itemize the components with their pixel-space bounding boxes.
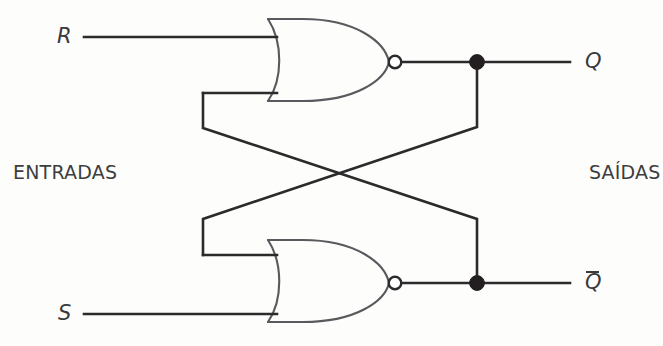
label-output-qbar-text: Q (585, 271, 602, 293)
nor-top-upper-arc (268, 19, 389, 62)
junction-dot-qbar (470, 276, 485, 291)
nor-bottom-lower-arc (268, 283, 389, 322)
label-output-qbar: Q (585, 271, 602, 293)
nor-top-left-edge (268, 19, 279, 101)
label-input-s: S (58, 303, 71, 324)
label-outputs-group: SAÍDAS (589, 163, 661, 182)
nor-bottom-left-edge (268, 240, 279, 322)
logic-diagram-figure: R S Q Q ENTRADAS SAÍDAS (0, 0, 663, 346)
label-input-r: R (57, 26, 72, 47)
inversion-bubble-icon-bottom (389, 277, 402, 290)
label-inputs-group: ENTRADAS (13, 163, 117, 182)
junction-dot-q (470, 55, 485, 70)
nor-bottom-upper-arc (268, 240, 389, 283)
label-output-q: Q (585, 51, 602, 72)
nor-top-lower-arc (268, 62, 389, 101)
wire-feedback-q-to-bottom (203, 62, 477, 255)
inversion-bubble-icon-top (389, 56, 402, 69)
